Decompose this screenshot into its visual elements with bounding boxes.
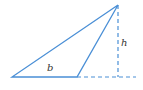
triangle-shape: [12, 5, 118, 77]
height-label: h: [121, 38, 127, 48]
triangle-diagram: b h: [0, 0, 143, 90]
base-label: b: [47, 63, 53, 73]
